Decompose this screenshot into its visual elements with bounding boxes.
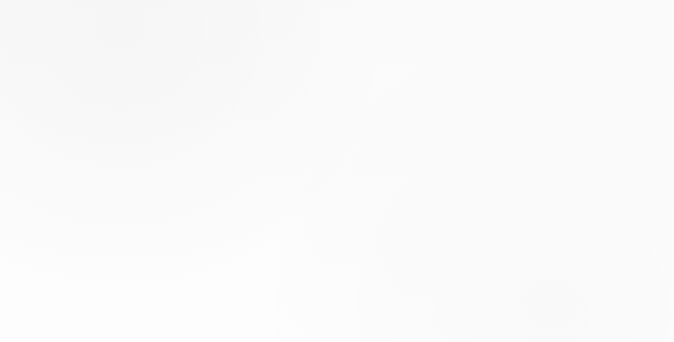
bar-slot (264, 38, 303, 215)
y-axis-tick-label: 1000 (75, 138, 100, 150)
plot-area: 020040060080010001200 (432, 39, 628, 219)
bar-group (107, 38, 303, 215)
x-axis-tick-label: 10 (432, 227, 471, 239)
x-axis-tick-label: 300 (264, 223, 303, 235)
chart-panel-image-access: processing time(ms) 02004006008001000120… (358, 17, 641, 318)
bar-slot (107, 38, 146, 215)
bar-50 (156, 189, 175, 215)
y-axis-title: processing time(ms) (55, 39, 67, 189)
y-axis-tick-label: 1000 (400, 63, 425, 75)
x-axis-title: the number of image access (359, 264, 640, 278)
bar-slot (510, 39, 549, 219)
x-axis-tick-label: 10 (107, 223, 146, 235)
y-axis-tick-label: 2500 (75, 32, 100, 44)
bar-100 (196, 165, 215, 215)
bar-chart-text-access: processing time(ms) 05001000150020002500… (36, 18, 315, 315)
y-axis-title: processing time(ms) (378, 43, 390, 193)
gridline (432, 128, 628, 129)
x-axis-tick-label: 100 (510, 227, 549, 239)
x-axis-tick-labels: 1050100200300 (107, 223, 303, 235)
gridline (107, 37, 303, 38)
x-axis-tick-label: 300 (589, 227, 628, 239)
x-axis-tick-label: 100 (185, 223, 224, 235)
bar-chart-image-access: processing time(ms) 02004006008001000120… (359, 18, 640, 317)
y-axis-tick-label: 500 (81, 174, 100, 186)
x-axis-tick-label: 50 (471, 227, 510, 239)
bar-slot (589, 39, 628, 219)
y-axis-tick-label: 0 (419, 213, 425, 225)
gridline (432, 68, 628, 69)
y-axis-tick-label: 1200 (400, 33, 425, 45)
plot-area: 05001000150020002500 (107, 38, 303, 215)
y-axis-tick-label: 200 (406, 183, 425, 195)
y-axis-tick-label: 400 (406, 153, 425, 165)
bar-200 (560, 99, 579, 219)
chart-panel-text-access: processing time(ms) 05001000150020002500… (35, 17, 316, 316)
bar-slot (225, 38, 264, 215)
gridline (432, 158, 628, 159)
gridline (107, 72, 303, 73)
gridline (107, 143, 303, 144)
x-axis-tick-label: 50 (146, 223, 185, 235)
gridline (432, 38, 628, 39)
gridline (107, 108, 303, 109)
x-axis-title: the number of text access (36, 261, 315, 275)
y-axis-tick-label: 2000 (75, 67, 100, 79)
x-axis-tick-label: 200 (225, 223, 264, 235)
bar-slot (185, 38, 224, 215)
axis-baseline (432, 218, 628, 219)
gridline (432, 98, 628, 99)
bar-50 (481, 179, 500, 220)
gridline (432, 188, 628, 189)
axis-baseline (107, 214, 303, 215)
bar-100 (521, 137, 540, 220)
bar-group (432, 39, 628, 219)
gridline (107, 179, 303, 180)
bar-slot (146, 38, 185, 215)
y-axis-tick-label: 800 (406, 93, 425, 105)
y-axis-tick-label: 1500 (75, 103, 100, 115)
y-axis-tick-label: 0 (94, 209, 100, 221)
bar-slot (550, 39, 589, 219)
bar-slot (432, 39, 471, 219)
bar-slot (471, 39, 510, 219)
bar-300 (274, 73, 293, 215)
y-axis-tick-label: 600 (406, 123, 425, 135)
x-axis-tick-label: 200 (550, 227, 589, 239)
bar-300 (599, 59, 618, 220)
bar-200 (235, 119, 254, 215)
x-axis-tick-labels: 1050100200300 (432, 227, 628, 239)
